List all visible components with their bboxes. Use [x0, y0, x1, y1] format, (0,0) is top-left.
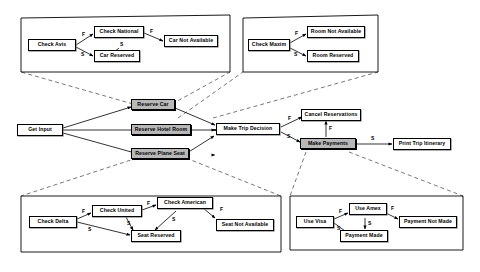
arrow-decision-to-make-payments: [281, 132, 300, 142]
edge-label-avis-s: S: [81, 52, 84, 57]
edge-label-amex-f: F: [391, 206, 394, 211]
edge-label-payments-s: S: [371, 136, 374, 141]
node-print-trip-itinerary[interactable]: Print Trip Itinerary: [393, 138, 451, 150]
arrow-national-to-car-not-available: [144, 33, 163, 41]
edge-label-delta-s: S: [88, 227, 91, 232]
edge-label-united-f: F: [147, 201, 150, 206]
edge-label-national-s: S: [120, 42, 123, 47]
node-room-reserved[interactable]: Room Reserved: [307, 50, 359, 62]
edge-label-american-f: F: [220, 207, 223, 212]
node-payment-made[interactable]: Payment Made: [340, 230, 388, 242]
node-get-input[interactable]: Get Input: [17, 124, 63, 136]
edge-label-decision-s: S: [287, 134, 290, 139]
node-car-reserved[interactable]: Car Reserved: [94, 50, 140, 62]
node-use-visa[interactable]: Use Visa: [296, 216, 334, 228]
arrow-avis-to-car-reserved: [76, 47, 93, 56]
arrow-seat-to-decision: [187, 136, 214, 153]
node-seat-reserved[interactable]: Seat Reserved: [131, 230, 181, 242]
node-check-maxim[interactable]: Check Maxim: [248, 39, 290, 51]
edge-label-amex-s: S: [368, 221, 371, 226]
node-make-trip-decision[interactable]: Make Trip Decision: [216, 123, 280, 135]
node-check-delta[interactable]: Check Delta: [29, 216, 77, 228]
node-payment-not-made[interactable]: Payment Not Made: [399, 216, 457, 228]
node-reserve-plane-seat[interactable]: Reserve Plane Seat: [131, 148, 189, 159]
node-check-avis[interactable]: Check Avis: [28, 39, 76, 51]
edge-label-maxim-f: F: [295, 31, 298, 36]
arrow-get-input-to-reserve-seat: [63, 133, 135, 153]
node-cancel-reservations[interactable]: Cancel Reservations: [301, 109, 361, 121]
node-make-payments[interactable]: Make Payments: [300, 138, 356, 149]
edge-label-payments-f: F: [329, 126, 332, 131]
edge-label-national-f: F: [150, 29, 153, 34]
node-check-united[interactable]: Check United: [92, 205, 142, 217]
node-use-amex[interactable]: Use Amex: [349, 203, 387, 215]
arrow-american-to-seat-not-available: [203, 208, 215, 218]
edge-label-american-s: S: [172, 217, 175, 222]
node-check-national[interactable]: Check National: [94, 26, 144, 38]
arrow-decision-to-cancel: [281, 117, 302, 127]
edge-label-decision-f: F: [288, 116, 291, 121]
node-reserve-hotel-room[interactable]: Reserve Hotel Room: [131, 124, 191, 135]
node-room-not-available[interactable]: Room Not Available: [307, 26, 365, 38]
node-seat-not-available[interactable]: Seat Not Available: [216, 219, 274, 231]
edge-label-visa-f: F: [339, 209, 342, 214]
edge-label-avis-f: F: [82, 32, 85, 37]
edge-label-maxim-s: S: [294, 52, 297, 57]
arrow-get-input-to-reserve-car: [63, 107, 131, 128]
node-check-american[interactable]: Check American: [157, 197, 213, 209]
arrow-reserve-car-to-decision: [175, 108, 215, 125]
edge-label-united-s: S: [127, 221, 130, 226]
diagram-canvas: Check Avis Check National Car Reserved C…: [0, 0, 480, 272]
edge-label-delta-f: F: [82, 209, 85, 214]
edge-label-visa-s: S: [337, 226, 340, 231]
node-car-not-available[interactable]: Car Not Available: [164, 35, 218, 47]
node-reserve-car[interactable]: Reserve Car: [131, 99, 175, 110]
arrow-delta-to-seat-reserved: [77, 222, 130, 235]
